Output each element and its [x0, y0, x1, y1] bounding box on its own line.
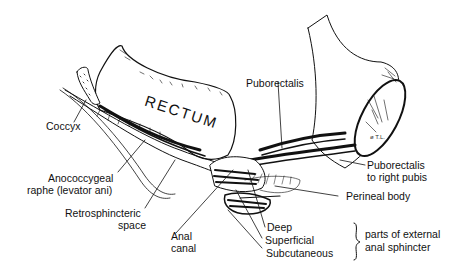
label-superficial: Superficial	[265, 234, 314, 246]
label-retrosphincteric-1: Retrosphincteric	[65, 207, 141, 219]
pubic-bone	[308, 15, 416, 168]
label-puborectalis-pubis-1: Puborectalis	[367, 159, 425, 171]
label-sphincter-group-2: anal sphincter	[365, 241, 430, 253]
artist-signature: ø T.L.	[370, 134, 385, 140]
label-retrosphincteric-2: space	[118, 219, 146, 231]
anatomical-figure: RECTUM Coccyx Puborectalis Anococcygeal …	[0, 0, 459, 269]
label-anal-canal-2: canal	[171, 242, 196, 254]
external-anal-sphincter	[210, 157, 300, 214]
label-deep: Deep	[267, 221, 292, 233]
brace	[354, 223, 360, 260]
label-sphincter-group-1: parts of external	[365, 228, 440, 240]
label-puborectalis: Puborectalis	[246, 77, 304, 89]
label-perineal-body: Perineal body	[346, 190, 410, 202]
label-anococcygeal-2: raphe (levator ani)	[27, 184, 112, 196]
label-anal-canal-1: Anal	[171, 230, 192, 242]
label-puborectalis-pubis-2: to right pubis	[367, 171, 427, 183]
label-subcutaneous: Subcutaneous	[266, 247, 333, 259]
label-coccyx: Coccyx	[46, 120, 80, 132]
label-anococcygeal-1: Anococcygeal	[48, 172, 113, 184]
